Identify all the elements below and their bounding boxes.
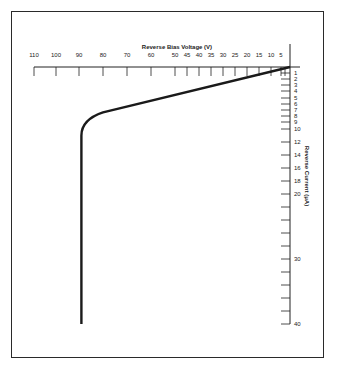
y-tick-label: 14 xyxy=(294,152,301,158)
y-axis-title: Reverse Current (μA) xyxy=(304,146,310,206)
series-line xyxy=(81,67,290,324)
x-tick-label: 20 xyxy=(244,52,251,58)
x-tick-label: 35 xyxy=(208,52,215,58)
chart: 110100908070605045403530252015105Reverse… xyxy=(0,0,337,378)
x-tick-label: 5 xyxy=(279,52,283,58)
x-tick-label: 110 xyxy=(29,52,39,58)
x-tick-label: 25 xyxy=(232,52,239,58)
y-tick-label: 40 xyxy=(294,321,301,327)
x-tick-label: 100 xyxy=(51,52,62,58)
y-tick-label: 9 xyxy=(294,119,298,125)
x-tick-label: 10 xyxy=(268,52,275,58)
x-tick-label: 50 xyxy=(172,52,179,58)
y-tick-label: 10 xyxy=(294,126,301,132)
x-axis-title: Reverse Bias Voltage (V) xyxy=(142,44,212,50)
x-tick-label: 90 xyxy=(76,52,83,58)
x-tick-label: 45 xyxy=(184,52,191,58)
y-tick-label: 16 xyxy=(294,165,301,171)
y-tick-label: 30 xyxy=(294,256,301,262)
x-tick-label: 60 xyxy=(148,52,155,58)
y-tick-label: 20 xyxy=(294,191,301,197)
x-tick-label: 80 xyxy=(100,52,107,58)
y-tick-label: 12 xyxy=(294,139,301,145)
y-tick-label: 18 xyxy=(294,178,301,184)
x-tick-label: 70 xyxy=(124,52,131,58)
x-tick-label: 15 xyxy=(256,52,263,58)
x-tick-label: 30 xyxy=(220,52,227,58)
x-tick-label: 40 xyxy=(196,52,203,58)
y-tick-label: 4 xyxy=(294,88,298,94)
